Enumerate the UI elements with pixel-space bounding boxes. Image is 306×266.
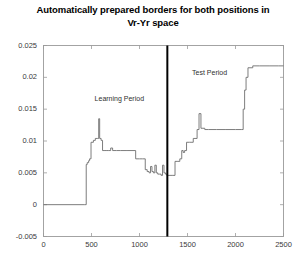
chart-figure: Automatically prepared borders for both … (0, 0, 306, 266)
y-tick-label: 0.025 (1, 41, 37, 50)
y-tick-label: 0.02 (1, 72, 37, 81)
x-tick-label: 0 (24, 240, 64, 249)
tick-marks (44, 46, 284, 237)
x-tick-label: 1000 (120, 240, 160, 249)
learning-period-label: Learning Period (95, 95, 144, 102)
test-period-label: Test Period (192, 69, 227, 76)
x-tick-label: 2500 (264, 240, 304, 249)
y-tick-label: 0 (1, 200, 37, 209)
x-tick-label: 500 (72, 240, 112, 249)
data-series (44, 66, 284, 205)
x-tick-label: 2000 (216, 240, 256, 249)
y-tick-label: 0.005 (1, 168, 37, 177)
x-tick-label: 1500 (168, 240, 208, 249)
series-line-border (44, 66, 284, 205)
y-tick-label: 0.01 (1, 136, 37, 145)
axes-frame (44, 46, 284, 237)
plot-canvas (0, 0, 306, 266)
y-tick-label: 0.015 (1, 104, 37, 113)
plot-area: -0.00500.0050.010.0150.020.0250500100015… (0, 0, 306, 266)
